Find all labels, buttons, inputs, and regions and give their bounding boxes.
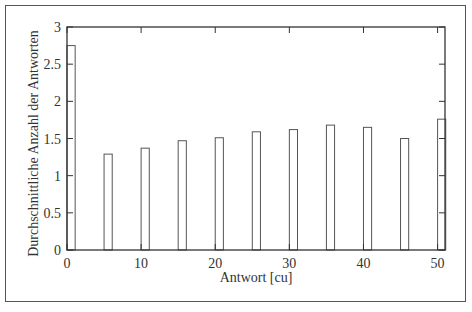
bar-10 bbox=[141, 148, 149, 250]
x-tick-label: 0 bbox=[64, 256, 71, 271]
y-tick-label: 0.5 bbox=[44, 206, 62, 221]
bar-0 bbox=[67, 46, 75, 250]
bar-15 bbox=[178, 141, 186, 250]
y-tick-label: 1 bbox=[54, 169, 61, 184]
bar-30 bbox=[289, 130, 297, 250]
bar-35 bbox=[326, 125, 334, 250]
y-tick-label: 2 bbox=[54, 94, 61, 109]
x-tick-label: 50 bbox=[431, 256, 445, 271]
y-tick-label: 1.5 bbox=[44, 132, 62, 147]
bar-25 bbox=[252, 132, 260, 250]
bars-group bbox=[67, 46, 446, 250]
x-tick-label: 20 bbox=[208, 256, 222, 271]
x-axis-title: Antwort [cu] bbox=[220, 270, 293, 285]
y-tick-label: 2.5 bbox=[44, 57, 62, 72]
bar-20 bbox=[215, 138, 223, 250]
y-tick-label: 0 bbox=[54, 243, 61, 258]
bar-45 bbox=[401, 139, 409, 251]
x-tick-label: 30 bbox=[282, 256, 296, 271]
x-tick-label: 40 bbox=[356, 256, 370, 271]
y-axis-title: Durchschnittliche Anzahl der Antworten bbox=[26, 30, 41, 257]
x-tick-label: 10 bbox=[134, 256, 148, 271]
bar-40 bbox=[363, 127, 371, 250]
bar-5 bbox=[104, 154, 112, 250]
bar-chart: 00.511.522.53 01020304050 Antwort [cu] D… bbox=[0, 0, 472, 312]
y-tick-label: 3 bbox=[54, 20, 61, 35]
